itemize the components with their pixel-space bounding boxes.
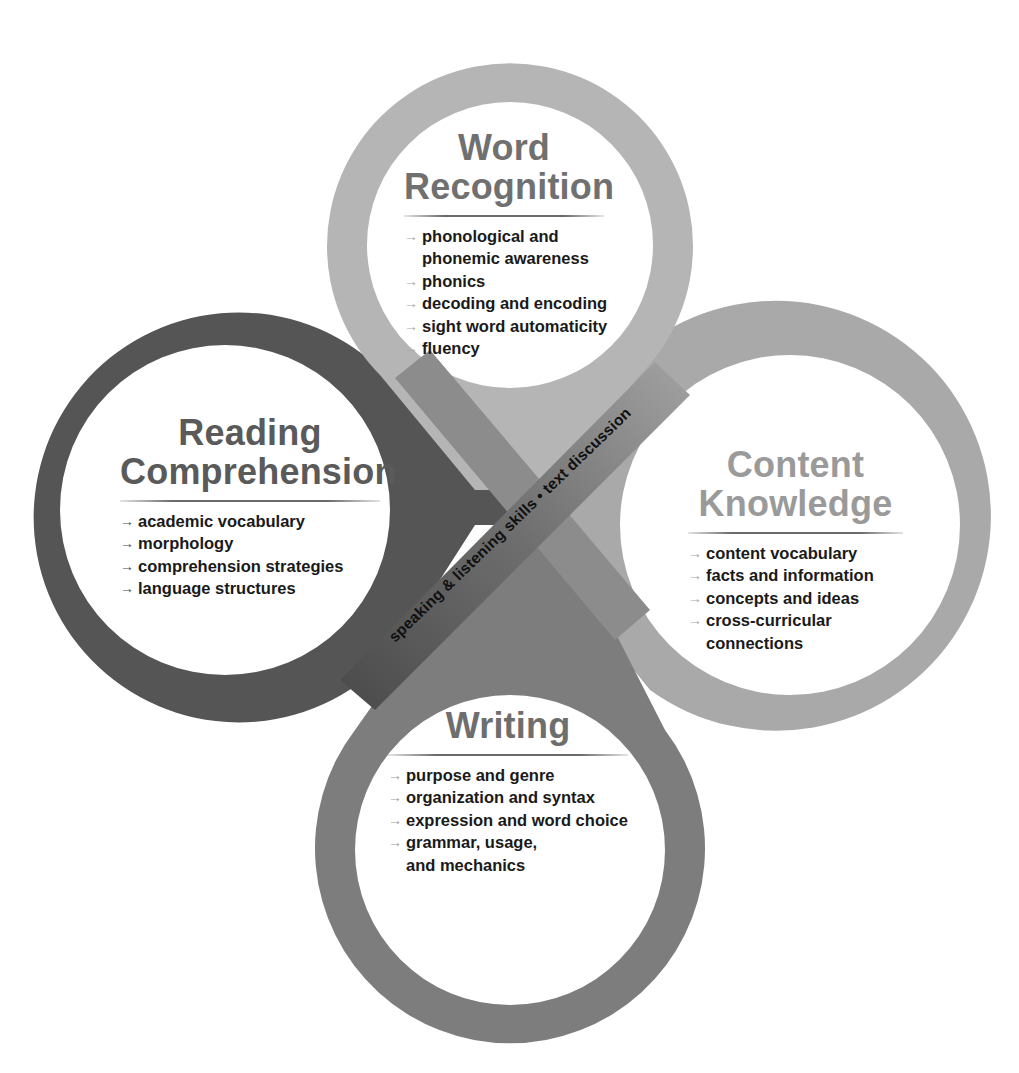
list-item: →phonics: [404, 270, 604, 292]
item-text: organization and syntax: [406, 786, 628, 808]
arrow-right-icon: →: [404, 225, 418, 247]
list-item: →cross-curricularconnections: [688, 609, 903, 654]
item-text: expression and word choice: [406, 809, 628, 831]
arrow-right-icon: →: [388, 764, 402, 786]
item-text: language structures: [138, 577, 380, 599]
item-text: academic vocabulary: [138, 510, 380, 532]
title-divider: [388, 754, 628, 756]
panel-content-knowledge: Content Knowledge →content vocabulary →f…: [688, 445, 903, 654]
arrow-right-icon: →: [404, 315, 418, 337]
arrow-right-icon: →: [120, 510, 134, 532]
title-divider: [120, 500, 380, 502]
item-text: fluency: [422, 337, 604, 359]
item-text: content vocabulary: [706, 542, 903, 564]
list-item: →decoding and encoding: [404, 292, 604, 314]
title-line: Content: [688, 445, 903, 484]
item-text: phonemic awareness: [422, 247, 604, 269]
arrow-right-icon: →: [388, 786, 402, 808]
list-item: →grammar, usage,and mechanics: [388, 831, 628, 876]
item-text: sight word automaticity: [422, 315, 604, 337]
arrow-right-icon: →: [388, 809, 402, 831]
list-item: →purpose and genre: [388, 764, 628, 786]
item-text: phonics: [422, 270, 604, 292]
list-item: →phonological andphonemic awareness: [404, 225, 604, 270]
arrow-right-icon: →: [688, 609, 702, 631]
arrow-right-icon: →: [404, 292, 418, 314]
reading-comprehension-title: Reading Comprehension: [120, 413, 380, 491]
arrow-right-icon: →: [388, 831, 402, 853]
arrow-right-icon: →: [688, 542, 702, 564]
item-text: facts and information: [706, 564, 903, 586]
panel-reading-comprehension: Reading Comprehension →academic vocabula…: [120, 413, 380, 600]
item-text: concepts and ideas: [706, 587, 903, 609]
item-text: and mechanics: [406, 854, 628, 876]
list-item: →morphology: [120, 532, 380, 554]
list-item: →facts and information: [688, 564, 903, 586]
item-text: morphology: [138, 532, 380, 554]
arrow-right-icon: →: [120, 577, 134, 599]
list-item: →content vocabulary: [688, 542, 903, 564]
list-item: →organization and syntax: [388, 786, 628, 808]
item-text: comprehension strategies: [138, 555, 380, 577]
arrow-right-icon: →: [120, 555, 134, 577]
list-item: →language structures: [120, 577, 380, 599]
title-line: Comprehension: [120, 452, 380, 491]
title-divider: [688, 532, 903, 534]
writing-title: Writing: [388, 706, 628, 745]
list-item: →academic vocabulary: [120, 510, 380, 532]
arrow-right-icon: →: [120, 532, 134, 554]
title-line: Word: [404, 128, 604, 167]
word-recognition-list: →phonological andphonemic awareness →pho…: [404, 225, 604, 359]
list-item: →fluency: [404, 337, 604, 359]
item-text: phonological and: [422, 225, 604, 247]
item-text: purpose and genre: [406, 764, 628, 786]
title-divider: [404, 215, 604, 217]
item-text: connections: [706, 632, 903, 654]
panel-word-recognition: Word Recognition →phonological andphonem…: [404, 128, 604, 359]
arrow-right-icon: →: [404, 337, 418, 359]
panel-writing: Writing →purpose and genre →organization…: [388, 706, 628, 876]
arrow-right-icon: →: [688, 564, 702, 586]
list-item: →sight word automaticity: [404, 315, 604, 337]
reading-comprehension-list: →academic vocabulary →morphology →compre…: [120, 510, 380, 600]
title-line: Recognition: [404, 167, 604, 206]
title-line: Reading: [120, 413, 380, 452]
writing-list: →purpose and genre →organization and syn…: [388, 764, 628, 876]
word-recognition-title: Word Recognition: [404, 128, 604, 206]
content-knowledge-list: →content vocabulary →facts and informati…: [688, 542, 903, 654]
list-item: →concepts and ideas: [688, 587, 903, 609]
arrow-right-icon: →: [404, 270, 418, 292]
item-text: cross-curricular: [706, 609, 903, 631]
list-item: →expression and word choice: [388, 809, 628, 831]
list-item: →comprehension strategies: [120, 555, 380, 577]
content-knowledge-title: Content Knowledge: [688, 445, 903, 523]
item-text: decoding and encoding: [422, 292, 604, 314]
title-line: Knowledge: [688, 484, 903, 523]
item-text: grammar, usage,: [406, 831, 628, 853]
arrow-right-icon: →: [688, 587, 702, 609]
title-line: Writing: [388, 706, 628, 745]
